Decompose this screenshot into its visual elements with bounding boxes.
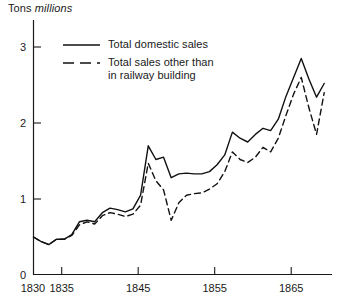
y-tick-label-3: 3 <box>20 41 26 53</box>
y-tick-label-0: 0 <box>20 269 26 281</box>
chart-figure: Tons millions 3 2 1 0 1830 1835 18 <box>0 0 339 304</box>
y-axis-ticks <box>34 47 42 199</box>
x-tick-label-1845: 1845 <box>126 282 150 294</box>
legend <box>63 45 100 63</box>
legend-label-total-sales-other-than-railway: Total sales other than in railway buildi… <box>108 56 214 81</box>
y-tick-label-1: 1 <box>20 193 26 205</box>
data-series <box>34 58 325 244</box>
y-tick-label-2: 2 <box>20 117 26 129</box>
x-axis-tick-labels: 1830 1835 1845 1855 1865 <box>21 282 304 294</box>
series-line-total-sales-other-than-railway <box>34 77 325 244</box>
x-tick-label-1835: 1835 <box>49 282 73 294</box>
legend-label-total-domestic-sales: Total domestic sales <box>108 38 208 51</box>
x-tick-label-1855: 1855 <box>202 282 226 294</box>
x-axis-ticks <box>62 267 292 275</box>
y-axis-tick-labels: 3 2 1 0 <box>20 41 26 281</box>
x-tick-label-1865: 1865 <box>279 282 303 294</box>
x-tick-label-1830: 1830 <box>21 282 45 294</box>
series-line-total-domestic-sales <box>34 58 325 244</box>
